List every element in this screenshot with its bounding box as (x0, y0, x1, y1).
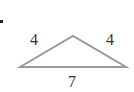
triangle-diagram: 4 4 7 (0, 0, 134, 92)
left-side-label: 4 (30, 31, 38, 48)
right-side-label: 4 (106, 31, 114, 48)
base-label: 7 (68, 73, 76, 90)
